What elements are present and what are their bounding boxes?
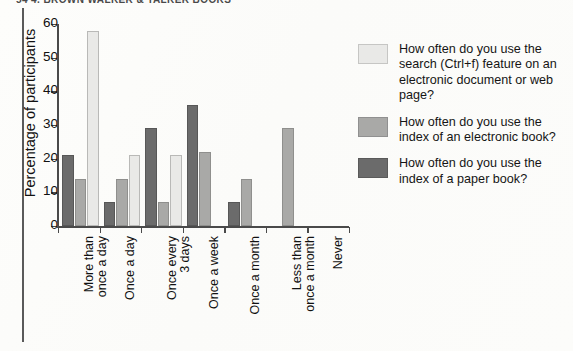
legend-item: How often do you use the index of a pape… [358, 156, 572, 187]
light-gray-swatch [358, 44, 388, 64]
x-axis-category-label: Less than once a month [291, 236, 317, 344]
legend-item: How often do you use the search (Ctrl+f)… [358, 42, 572, 104]
x-tick-mark [224, 227, 225, 233]
x-axis-category-label: More than once a day [83, 236, 109, 344]
bar [145, 128, 157, 226]
bar [75, 179, 87, 226]
bar [87, 31, 99, 226]
bar [158, 202, 170, 226]
x-tick-mark [183, 227, 184, 233]
y-tick-label: 10 [12, 183, 58, 198]
bar [228, 202, 240, 226]
x-tick-mark [141, 227, 142, 233]
bar [116, 179, 128, 226]
y-tick-label: 0 [12, 217, 58, 232]
legend-item: How often do you use the index of an ele… [358, 115, 572, 146]
medium-gray-swatch [358, 117, 388, 137]
x-axis-category-label: Once a day [124, 236, 137, 344]
x-tick-mark [266, 227, 267, 233]
legend-item-label: How often do you use the search (Ctrl+f)… [399, 42, 572, 104]
bar [104, 202, 116, 226]
x-axis-category-label: Once every 3 days [166, 236, 192, 344]
chart-legend: How often do you use the search (Ctrl+f)… [358, 42, 572, 198]
y-tick-label: 20 [12, 150, 58, 165]
x-tick-mark [58, 227, 59, 233]
x-axis-category-label: Once a month [249, 236, 262, 344]
bar [199, 152, 211, 226]
bar [129, 155, 141, 226]
y-tick-label: 40 [12, 82, 58, 97]
y-tick-label: 50 [12, 49, 58, 64]
x-tick-mark [307, 227, 308, 233]
x-tick-mark [100, 227, 101, 233]
legend-item-label: How often do you use the index of a pape… [399, 156, 572, 187]
y-tick-label: 60 [12, 15, 58, 30]
bar [170, 155, 182, 226]
bar [62, 155, 74, 226]
x-axis-category-label: Never [332, 236, 345, 344]
bar [282, 128, 294, 226]
dark-gray-swatch [358, 158, 388, 178]
bars-layer [58, 24, 349, 226]
bar-chart: Percentage of participants 0102030405060… [0, 0, 360, 351]
x-tick-mark [349, 227, 350, 233]
x-axis-category-label: Once a week [208, 236, 221, 344]
bar [241, 179, 253, 226]
y-tick-label: 30 [12, 116, 58, 131]
legend-item-label: How often do you use the index of an ele… [399, 115, 572, 146]
bar [187, 105, 199, 226]
